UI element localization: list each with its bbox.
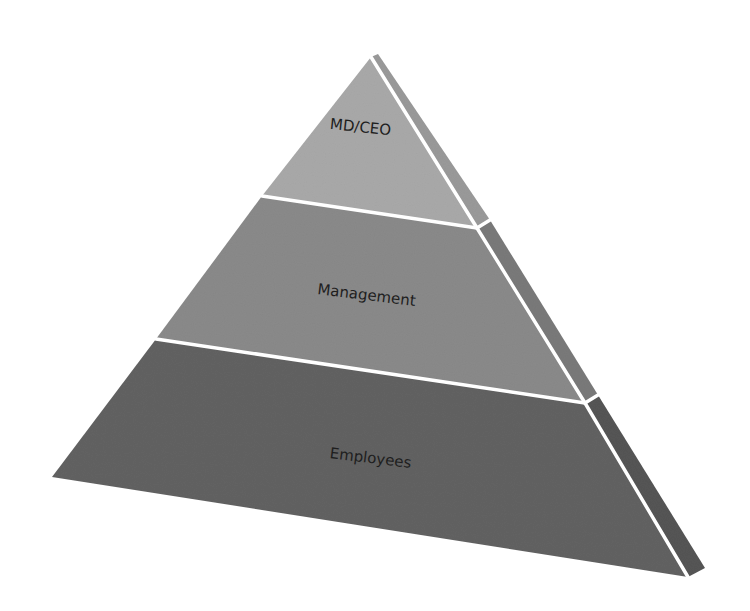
pyramid-diagram: MD/CEO Management Employees (0, 0, 750, 611)
